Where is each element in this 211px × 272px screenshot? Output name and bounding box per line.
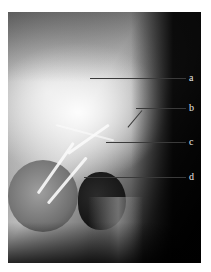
leader-line-b bbox=[136, 108, 186, 109]
leader-line-a bbox=[90, 78, 186, 79]
label-a: a bbox=[189, 73, 193, 83]
xray-lower-shadow bbox=[8, 222, 201, 263]
label-c: c bbox=[189, 137, 193, 147]
leader-line-d bbox=[84, 177, 186, 178]
label-b: b bbox=[189, 103, 194, 113]
label-d: d bbox=[189, 172, 194, 182]
xray-figure: a b c d bbox=[8, 12, 201, 263]
leader-line-c bbox=[106, 142, 186, 143]
